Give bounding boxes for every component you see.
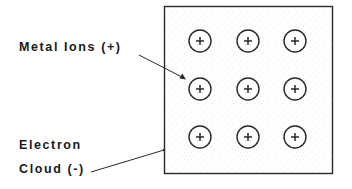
electron-cloud-pointer-line	[91, 149, 165, 172]
electron-cloud-label-line2: Cloud (-)	[19, 162, 85, 176]
metal-ion	[237, 126, 259, 148]
metallic-bond-diagram	[0, 0, 352, 189]
electron-cloud-label-line1: Electron	[19, 138, 82, 152]
metal-ion	[284, 30, 306, 52]
metal-ion	[189, 78, 211, 100]
metal-ion	[189, 30, 211, 52]
metal-ion	[237, 78, 259, 100]
ion-lattice	[189, 30, 306, 148]
metal-ion	[189, 126, 211, 148]
metal-ion	[284, 126, 306, 148]
metal-ions-label: Metal Ions (+)	[19, 40, 122, 54]
metal-ion	[237, 30, 259, 52]
metal-ion	[284, 78, 306, 100]
